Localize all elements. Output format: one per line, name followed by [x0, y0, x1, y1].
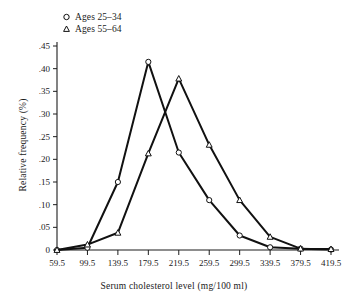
x-tick-label: 419.5 — [321, 258, 341, 268]
data-point-marker — [176, 150, 181, 155]
y-tick-label: .35 — [12, 86, 50, 96]
series-ages-55-64 — [54, 76, 334, 253]
data-point-marker — [176, 76, 182, 82]
data-point-marker — [146, 59, 151, 64]
x-tick-label: 59.5 — [49, 258, 65, 268]
y-tick-label: .20 — [12, 154, 50, 164]
axis-lines — [57, 42, 339, 250]
x-tick-label: 339.5 — [260, 258, 280, 268]
y-tick-label: .15 — [12, 177, 50, 187]
y-tick-label: .25 — [12, 132, 50, 142]
x-tick-label: 299.5 — [230, 258, 250, 268]
series-ages-25-34 — [54, 59, 333, 252]
data-point-marker — [268, 245, 273, 250]
x-tick-label: 379.5 — [290, 258, 310, 268]
y-tick-label: .30 — [12, 109, 50, 119]
y-tick-label: .10 — [12, 200, 50, 210]
data-point-marker — [115, 179, 120, 184]
x-axis-ticks — [57, 250, 331, 255]
x-tick-label: 179.5 — [138, 258, 158, 268]
data-series — [54, 59, 334, 252]
x-tick-label: 259.5 — [199, 258, 219, 268]
y-axis-ticks — [53, 46, 57, 250]
y-tick-label: .05 — [12, 222, 50, 232]
series-line — [57, 62, 331, 250]
data-point-marker — [145, 150, 151, 156]
data-point-marker — [237, 233, 242, 238]
y-tick-label: .40 — [12, 64, 50, 74]
data-point-marker — [207, 198, 212, 203]
x-tick-label: 99.5 — [80, 258, 96, 268]
frequency-polygon-chart: Ages 25–34 Ages 55–64 Relative frequency… — [0, 0, 348, 304]
data-point-marker — [115, 230, 121, 236]
x-tick-label: 219.5 — [169, 258, 189, 268]
y-tick-label: .45 — [12, 41, 50, 51]
y-tick-label: 0 — [12, 245, 50, 255]
x-tick-label: 139.5 — [108, 258, 128, 268]
